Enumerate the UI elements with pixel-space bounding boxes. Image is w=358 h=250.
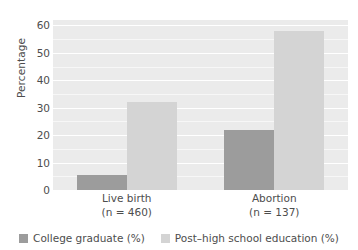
y-axis-tick-10: 10 bbox=[14, 157, 50, 169]
bar-abortion-series-2 bbox=[274, 31, 324, 190]
x-axis-label-name: Live birth bbox=[102, 192, 151, 204]
x-axis-label-count: (n = 460) bbox=[102, 205, 152, 219]
y-axis-tick-50: 50 bbox=[14, 47, 50, 59]
chart-legend: College graduate (%)Post–high school edu… bbox=[0, 232, 358, 244]
bar-chart: Percentage 0102030405060 Live birth(n = … bbox=[0, 0, 358, 250]
x-axis-label-name: Abortion bbox=[252, 192, 297, 204]
legend-item-1: College graduate (%) bbox=[19, 232, 145, 244]
square-swatch bbox=[161, 234, 170, 243]
x-axis-category-labels: Live birth(n = 460)Abortion(n = 137) bbox=[53, 191, 348, 233]
y-axis-tick-0: 0 bbox=[14, 184, 50, 196]
legend-label-1: College graduate (%) bbox=[33, 232, 145, 244]
plot-panel bbox=[53, 20, 348, 190]
y-axis-tick-60: 60 bbox=[14, 19, 50, 31]
legend-label-2: Post–high school education (%) bbox=[175, 232, 339, 244]
y-axis-tick-labels: 0102030405060 bbox=[14, 0, 50, 250]
bar-live-birth-series-2 bbox=[127, 102, 177, 190]
x-axis-label-live-birth: Live birth(n = 460) bbox=[102, 191, 152, 219]
y-axis-tick-40: 40 bbox=[14, 74, 50, 86]
y-axis-tick-30: 30 bbox=[14, 102, 50, 114]
x-axis-label-count: (n = 137) bbox=[249, 205, 299, 219]
bar-live-birth-series-1 bbox=[77, 175, 127, 190]
legend-item-2: Post–high school education (%) bbox=[161, 232, 339, 244]
y-axis-tick-20: 20 bbox=[14, 129, 50, 141]
x-axis-label-abortion: Abortion(n = 137) bbox=[249, 191, 299, 219]
gridline-major-60 bbox=[53, 25, 348, 26]
square-swatch bbox=[19, 234, 28, 243]
bar-abortion-series-1 bbox=[224, 130, 274, 190]
